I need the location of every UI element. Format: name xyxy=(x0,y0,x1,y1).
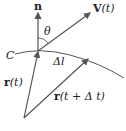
velocity-label: V(t) xyxy=(93,3,115,14)
curve-label: C xyxy=(6,50,14,61)
arc-length-label: Δl xyxy=(53,56,64,67)
normal-label: n xyxy=(34,1,42,12)
vector-diagram: n V(t) θ C Δl r(t) r(t + Δ t) xyxy=(0,0,126,131)
angle-arc xyxy=(38,38,48,43)
velocity-label-arg: (t) xyxy=(102,2,115,15)
curve-c xyxy=(15,51,124,78)
position-label-arg: (t) xyxy=(10,76,23,89)
position2-label: r(t + Δ t) xyxy=(54,91,105,102)
velocity-label-bold: V xyxy=(93,2,102,15)
position-vector-arrow xyxy=(24,52,38,118)
angle-label: θ xyxy=(44,26,51,37)
position2-label-arg: (t + Δ t) xyxy=(60,90,105,103)
position-label: r(t) xyxy=(4,77,23,88)
